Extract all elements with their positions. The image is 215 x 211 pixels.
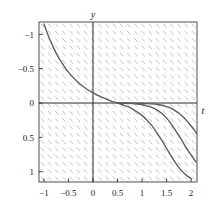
y-tick-label: 1 [30,167,35,177]
y-axis-title: y [90,9,96,20]
x-tick-label: 1 [140,188,145,198]
slope-field-figure: −1−0.500.511.52 10.50−0.5−1 y t [0,0,215,211]
x-tick-label: −1 [39,188,49,198]
x-tick-label: 0.5 [112,188,124,198]
y-tick-label: 0.5 [23,133,35,143]
x-tick-label: 0 [91,188,96,198]
x-axis-tick-labels: −1−0.500.511.52 [39,188,193,198]
y-tick-label: −1 [24,30,34,40]
x-axis-title: t [202,105,205,116]
y-tick-label: −0.5 [18,64,35,74]
y-tick-label: 0 [30,98,35,108]
x-tick-label: 1.5 [161,188,173,198]
x-tick-label: −0.5 [60,188,77,198]
x-tick-label: 2 [189,188,194,198]
plot-canvas: −1−0.500.511.52 10.50−0.5−1 y t [0,0,215,211]
